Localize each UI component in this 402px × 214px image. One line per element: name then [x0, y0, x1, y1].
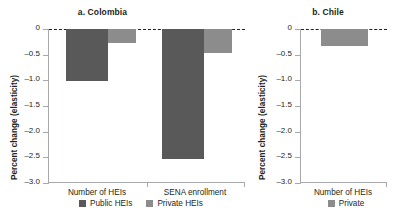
panel-a-ytick-label-1: –0.5	[24, 49, 40, 58]
panel-b-ytick-5: –2.5	[295, 157, 301, 158]
panel-b-ytick-6: –3.0	[295, 183, 301, 184]
legend-swatch-public-icon	[79, 200, 86, 207]
panel-b-ytick-4: –2.0	[295, 132, 301, 133]
panel-b-ytick-label-0: 0	[288, 23, 292, 32]
panel-a-ytick-label-6: –3.0	[24, 177, 40, 186]
panel-a-plot-area: 0 –0.5 –1.0 –1.5 –2.0 –2.5 –3.0	[48, 29, 245, 183]
panel-a-xcat-sena-enrollment: SENA enrollment	[146, 188, 244, 197]
panel-a-ytick-label-3: –1.5	[24, 100, 40, 109]
panel-b-xcat-number-of-heis: Number of HEIs	[300, 188, 386, 197]
panel-a-ytick-4: –2.0	[43, 132, 49, 133]
panel-a-ytick-3: –1.5	[43, 106, 49, 107]
legend-item-private-heis: Private HEIs	[146, 199, 203, 208]
panel-b-ytick-3: –1.5	[295, 106, 301, 107]
legend-label-private: Private	[339, 199, 364, 208]
panel-a-title: a. Colombia	[10, 7, 195, 17]
panel-b-legend: Private	[248, 199, 402, 208]
panel-b-ytick-label-5: –2.5	[276, 151, 292, 160]
panel-b-ytick-label-6: –3.0	[276, 177, 292, 186]
panel-a-ytick-label-5: –2.5	[24, 151, 40, 160]
panel-a-ytick-label-2: –1.0	[24, 74, 40, 83]
panel-b-x-axis-line	[301, 182, 387, 183]
bar-colombia-sena-public	[162, 29, 204, 159]
legend-label-private-heis: Private HEIs	[157, 199, 203, 208]
panel-b-ytick-1: –0.5	[295, 55, 301, 56]
panel-b-y-axis-label: Percent change (elasticity)	[258, 75, 267, 180]
bar-colombia-number-public	[66, 29, 108, 81]
panel-a-y-axis-label: Percent change (elasticity)	[10, 75, 19, 180]
legend-label-public-heis: Public HEIs	[90, 199, 132, 208]
panel-b-ytick-label-3: –1.5	[276, 100, 292, 109]
panel-b-plot-area: 0 –0.5 –1.0 –1.5 –2.0 –2.5 –3.0	[300, 29, 387, 183]
bar-colombia-sena-private	[204, 29, 232, 53]
panel-a-legend: Public HEIs Private HEIs	[0, 199, 248, 208]
panel-a-ytick-2: –1.0	[43, 80, 49, 81]
legend-swatch-private-chile-icon	[328, 200, 335, 207]
panel-b-ytick-label-1: –0.5	[276, 49, 292, 58]
panel-a-ytick-label-4: –2.0	[24, 126, 40, 135]
panel-a-xcat-number-of-heis: Number of HEIs	[48, 188, 146, 197]
panel-b-ytick-label-4: –2.0	[276, 126, 292, 135]
legend-item-private: Private	[328, 199, 364, 208]
panel-a-ytick-6: –3.0	[43, 183, 49, 184]
bar-chile-number-private	[321, 29, 368, 46]
panel-b-title: b. Chile	[268, 7, 388, 17]
panel-colombia: a. Colombia Percent change (elasticity) …	[0, 0, 248, 214]
panel-a-xtick-end	[244, 183, 245, 187]
bar-colombia-number-private	[108, 29, 136, 43]
figure-two-panel-bar-chart: a. Colombia Percent change (elasticity) …	[0, 0, 402, 214]
legend-item-public-heis: Public HEIs	[79, 199, 132, 208]
panel-a-ytick-1: –0.5	[43, 55, 49, 56]
panel-a-ytick-label-0: 0	[36, 23, 40, 32]
legend-swatch-private-icon	[146, 200, 153, 207]
panel-b-ytick-label-2: –1.0	[276, 74, 292, 83]
panel-a-ytick-5: –2.5	[43, 157, 49, 158]
panel-a-ytick-0: 0	[43, 29, 49, 30]
panel-a-xtick-mid	[147, 183, 148, 187]
panel-b-ytick-2: –1.0	[295, 80, 301, 81]
panel-b-ytick-0: 0	[295, 29, 301, 30]
panel-b-xtick-end	[386, 183, 387, 187]
